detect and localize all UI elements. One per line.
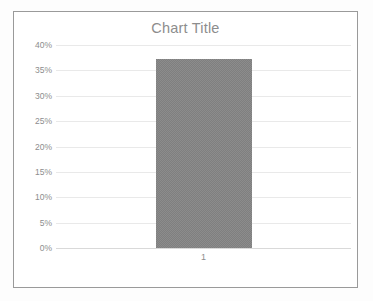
y-axis-tick-label: 15% xyxy=(35,167,52,177)
y-axis-tick-label: 10% xyxy=(35,192,52,202)
y-axis-tick-label: 40% xyxy=(35,40,52,50)
y-axis-tick-label: 25% xyxy=(35,116,52,126)
bar-series xyxy=(56,45,351,248)
y-axis: 40%35%30%25%20%15%10%5%0% xyxy=(14,45,52,248)
x-axis-tick-label: 1 xyxy=(201,252,206,262)
y-axis-tick-label: 35% xyxy=(35,65,52,75)
x-axis: 1 xyxy=(56,252,351,268)
y-axis-tick-label: 20% xyxy=(35,142,52,152)
y-axis-tick-label: 5% xyxy=(40,218,52,228)
bar[interactable] xyxy=(156,59,252,248)
gridline xyxy=(56,248,351,249)
chart-title: Chart Title xyxy=(14,20,357,36)
y-axis-tick-label: 0% xyxy=(40,243,52,253)
y-axis-tick-label: 30% xyxy=(35,91,52,101)
chart-container: Chart Title 40%35%30%25%20%15%10%5%0% 1 xyxy=(13,11,358,288)
